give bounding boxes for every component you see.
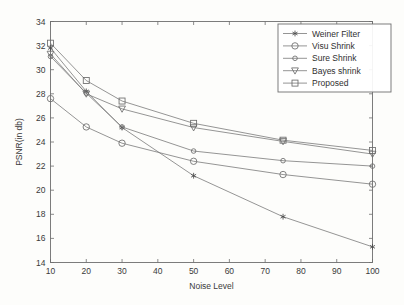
- y-tick-label: 14: [36, 258, 46, 268]
- legend-item-label: Visu Shrink: [312, 41, 356, 51]
- y-tick-label: 16: [36, 233, 46, 243]
- x-tick-label: 80: [296, 266, 306, 276]
- y-tick-label: 28: [36, 89, 46, 99]
- x-axis-title: Noise Level: [189, 281, 234, 291]
- data-point-marker: [191, 173, 196, 179]
- x-tick-label: 90: [332, 266, 342, 276]
- y-axis-title: PSNR(in db): [14, 118, 24, 166]
- legend-item-label: Proposed: [312, 78, 349, 88]
- x-tick-label: 60: [225, 266, 235, 276]
- y-tick-label: 34: [36, 17, 46, 27]
- y-tick-label: 18: [36, 209, 46, 219]
- y-tick-label: 24: [36, 137, 46, 147]
- x-tick-label: 100: [365, 266, 379, 276]
- legend[interactable]: Weiner FilterVisu ShrinkSure ShrinkBayes…: [278, 24, 391, 92]
- x-tick-label: 70: [260, 266, 270, 276]
- x-tick-label: 40: [153, 266, 163, 276]
- x-tick-label: 30: [117, 266, 127, 276]
- legend-item-label: Bayes shrink: [312, 66, 361, 76]
- y-tick-label: 32: [36, 41, 46, 51]
- x-tick-label: 20: [82, 266, 92, 276]
- chart-page: 1020304050607080901001416182022242628303…: [0, 0, 404, 305]
- y-tick-label: 20: [36, 185, 46, 195]
- psnr-vs-noise-level-chart: 1020304050607080901001416182022242628303…: [0, 0, 404, 305]
- y-tick-label: 26: [36, 113, 46, 123]
- data-point-marker: [370, 244, 375, 250]
- data-point-marker: [281, 214, 286, 220]
- y-tick-label: 30: [36, 65, 46, 75]
- y-tick-label: 22: [36, 161, 46, 171]
- x-tick-label: 10: [46, 266, 56, 276]
- legend-item-label: Sure Shrink: [312, 53, 357, 63]
- legend-item-label: Weiner Filter: [312, 29, 360, 39]
- series-visu-shrink: [47, 95, 375, 187]
- x-tick-label: 50: [189, 266, 199, 276]
